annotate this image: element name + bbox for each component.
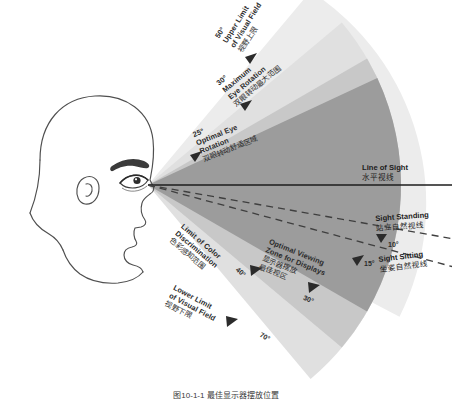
label-sight-standing: Sight Standing 站立自然视线	[375, 210, 430, 234]
pointer-lower-limit	[226, 316, 238, 327]
angle-sight-standing-value: 10°	[388, 241, 399, 248]
angle-sight-sitting: 15°	[364, 260, 375, 267]
eyebrow	[110, 159, 149, 171]
label-line-of-sight: Line of Sight 水平视线	[362, 163, 408, 183]
head-profile-illustration	[30, 96, 154, 283]
angle-sight-sitting-value: 15°	[364, 260, 375, 267]
angle-sight-standing: 10°	[388, 241, 399, 248]
figure-caption: 图10-1-1 最佳显示器摆放位置	[0, 389, 452, 401]
label-line-of-sight-en: Line of Sight	[362, 163, 408, 173]
eye	[120, 175, 148, 188]
label-line-of-sight-cn: 水平视线	[362, 173, 408, 183]
